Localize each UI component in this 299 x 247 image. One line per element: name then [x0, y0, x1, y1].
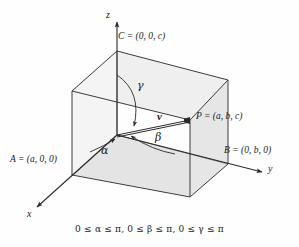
axis-label-z: z [106, 10, 110, 20]
angle-label-gamma: γ [137, 80, 144, 91]
figure-container: z y x C = (0, 0, c) P = (a, b, c) B = (0… [0, 0, 299, 247]
point-label-p: P = (a, b, c) [196, 112, 242, 122]
point-label-b: B = (0, b, 0) [224, 146, 271, 156]
angle-label-alpha: α [101, 145, 108, 156]
point-label-c: C = (0, 0, c) [118, 32, 165, 42]
point-label-a: A = (a, 0, 0) [10, 155, 57, 165]
angle-label-beta: β [155, 132, 161, 143]
vector-v-line-upper [117, 120, 190, 135]
axis-label-y: y [268, 164, 272, 174]
vector-label-v: v [157, 111, 162, 122]
vector-v-line-lower [117, 122, 190, 137]
axis-label-x: x [27, 209, 31, 219]
figure-caption: 0 ≤ α ≤ π, 0 ≤ β ≤ π, 0 ≤ γ ≤ π [0, 224, 299, 234]
